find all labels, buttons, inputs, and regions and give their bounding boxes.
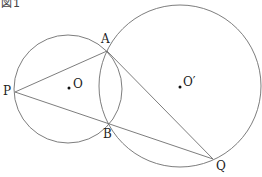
center-dot-o [68,87,71,90]
label-p: P [3,85,11,97]
segment-pq [15,92,213,159]
segment-aq [107,51,213,159]
label-b: B [103,128,112,140]
label-a: A [101,33,110,45]
label-q: Q [216,160,226,172]
segment-pa [15,51,107,92]
geometry-diagram [0,0,262,177]
label-o: O [73,78,83,90]
label-o-prime: O′ [183,76,196,88]
center-dot-o-prime [179,86,182,89]
